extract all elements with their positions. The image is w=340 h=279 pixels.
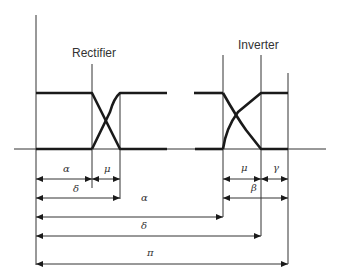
arrowhead-left-icon xyxy=(36,195,43,201)
rectifier-incoming-current xyxy=(92,93,167,149)
rectifier-waveform xyxy=(36,93,167,149)
dimension-label: δ xyxy=(141,220,147,231)
arrowhead-left-icon xyxy=(36,261,43,267)
dimension-label: μ xyxy=(104,163,111,174)
arrowhead-left-icon xyxy=(223,176,230,182)
arrowhead-left-icon xyxy=(36,233,43,239)
inverter-waveform xyxy=(194,93,288,149)
pi-dim: π xyxy=(36,247,288,267)
inv-delta-dim: δ xyxy=(36,220,261,239)
arrowhead-right-icon xyxy=(281,195,288,201)
rectifier-label: Rectifier xyxy=(72,46,116,60)
arrowhead-right-icon xyxy=(281,261,288,267)
arrowhead-right-icon xyxy=(113,176,120,182)
arrowhead-left-icon xyxy=(36,214,43,220)
inv-gamma-dim: γ xyxy=(261,162,288,182)
arrowhead-left-icon xyxy=(92,176,99,182)
rectifier-outgoing-current xyxy=(36,93,167,149)
rect-mu-dim: μ xyxy=(92,163,120,182)
dimension-label: γ xyxy=(273,162,279,173)
inverter-label: Inverter xyxy=(238,38,279,52)
inv-mu-dim: μ xyxy=(223,162,261,182)
arrowhead-left-icon xyxy=(261,176,268,182)
rect-alpha-dim: α xyxy=(36,163,92,182)
dimension-label: π xyxy=(146,247,154,258)
commutation-angle-diagram: Rectifier Inverter αμδμγβαδπ xyxy=(0,0,340,279)
dimension-label: α xyxy=(63,163,70,174)
dimension-label: α xyxy=(141,192,148,203)
inv-alpha-dim: α xyxy=(36,192,223,220)
inv-beta-dim: β xyxy=(223,182,288,201)
dimension-label: δ xyxy=(73,183,79,194)
arrowhead-right-icon xyxy=(254,233,261,239)
arrowhead-right-icon xyxy=(216,214,223,220)
arrowhead-right-icon xyxy=(281,176,288,182)
rect-delta-dim: δ xyxy=(36,183,120,201)
angle-dimensions: αμδμγβαδπ xyxy=(36,162,288,267)
arrowhead-right-icon xyxy=(85,176,92,182)
arrowhead-left-icon xyxy=(36,176,43,182)
dimension-label: μ xyxy=(241,162,248,173)
arrowhead-right-icon xyxy=(113,195,120,201)
arrowhead-left-icon xyxy=(223,195,230,201)
dimension-label: β xyxy=(250,182,257,193)
